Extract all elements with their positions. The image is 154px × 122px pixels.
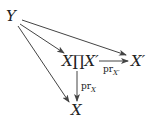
arrow-y-to-xprime — [22, 20, 126, 55]
label-pr-x-prime: prX′ — [103, 65, 120, 77]
label-pr-x-prime-sub: X′ — [113, 69, 120, 77]
node-product: X∏X′ — [62, 54, 99, 69]
label-pr-x: prX — [81, 82, 96, 94]
node-x: X — [71, 103, 82, 118]
node-y: Y — [6, 9, 16, 24]
node-x-prime: X′ — [131, 54, 145, 69]
label-pr-x-sub: X — [91, 86, 96, 94]
label-pr-x-main: pr — [81, 81, 91, 91]
label-pr-x-prime-main: pr — [103, 64, 113, 74]
